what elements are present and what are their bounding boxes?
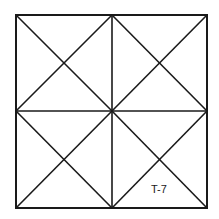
tile-diagram <box>0 0 219 219</box>
tile-label: T-7 <box>151 183 167 195</box>
